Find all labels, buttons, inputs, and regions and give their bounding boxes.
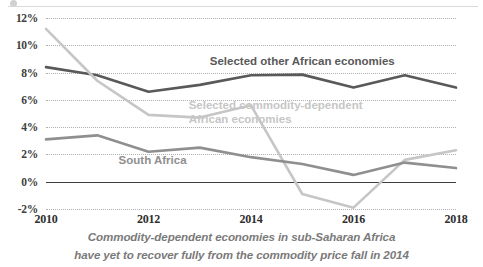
x-axis-tick-label: 2016 <box>324 212 384 227</box>
x-axis-tick-label: 2014 <box>221 212 281 227</box>
x-axis-tick-label: 2012 <box>119 212 179 227</box>
y-axis-tick-label: 2% <box>0 148 38 160</box>
series-label-line-2: African economies <box>189 112 363 126</box>
y-axis-tick-label: 10% <box>0 39 38 51</box>
series-label-commodity-dependent: Selected commodity-dependentAfrican econ… <box>189 97 363 126</box>
caption-line-1: Commodity-dependent economies in sub-Sah… <box>0 228 483 246</box>
chart-figure: 12%10%8%6%4%2%0%-2% 20102012201420162018… <box>0 0 483 267</box>
gridline <box>46 209 456 210</box>
top-divider <box>8 6 478 7</box>
caption-line-2: have yet to recover fully from the commo… <box>0 246 483 264</box>
x-axis-tick-label: 2010 <box>16 212 76 227</box>
y-axis-tick-label: 0% <box>0 176 38 188</box>
series-label-line-1: Selected commodity-dependent <box>189 97 363 111</box>
x-axis-tick-label: 2018 <box>426 212 483 227</box>
series-label-other-african: Selected other African economies <box>210 54 395 68</box>
y-axis-tick-label: 6% <box>0 94 38 106</box>
series-label-south-africa: South Africa <box>119 153 187 167</box>
y-axis-tick-label: 8% <box>0 67 38 79</box>
chart-caption: Commodity-dependent economies in sub-Sah… <box>0 228 483 264</box>
y-axis-tick-label: 12% <box>0 12 38 24</box>
y-axis-tick-label: 4% <box>0 121 38 133</box>
